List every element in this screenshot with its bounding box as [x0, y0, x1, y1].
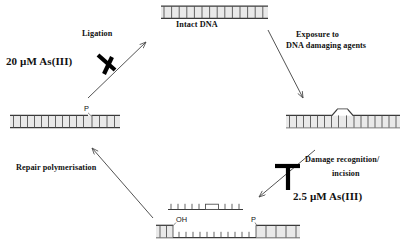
- arrow-ligation: [88, 42, 146, 98]
- label-p-terminus-bottom: P: [251, 216, 256, 225]
- label-exposure-line1: Exposure to: [296, 30, 339, 39]
- label-damage-recognition-line1: Damage recognition/: [305, 155, 379, 164]
- inhibitor-bar-ligation: [98, 55, 115, 74]
- dna-intact: [161, 6, 268, 18]
- diagram-canvas: [0, 0, 410, 243]
- label-damage-recognition-line2: incision: [332, 169, 360, 178]
- dna-damaged-lesion: [286, 109, 400, 127]
- label-p-terminus-left: P: [84, 105, 89, 114]
- dna-repaired-nicked: [10, 113, 120, 128]
- label-intact-dna: Intact DNA: [176, 20, 218, 29]
- label-ligation: Ligation: [82, 29, 112, 38]
- arrow-polymerisation: [92, 148, 153, 218]
- label-repair-polymerisation: Repair polymerisation: [16, 163, 96, 172]
- label-concentration-high: 20 µM As(III): [6, 55, 72, 68]
- label-oh-terminus: OH: [176, 216, 187, 225]
- label-concentration-low: 2.5 µM As(III): [293, 190, 362, 203]
- dna-repair-cycle-figure: Intact DNA Exposure to DNA damaging agen…: [0, 0, 410, 243]
- inhibitor-bar-incision: [275, 166, 300, 190]
- label-exposure-line2: DNA damaging agents: [286, 41, 366, 50]
